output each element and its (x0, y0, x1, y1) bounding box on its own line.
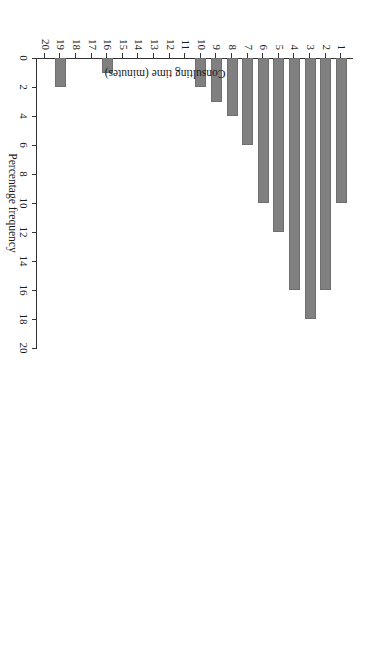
category-tick (215, 53, 216, 58)
category-tick (262, 53, 263, 58)
category-tick (340, 53, 341, 58)
category-tick (169, 53, 170, 58)
category-tick-label: 17 (87, 24, 98, 50)
category-tick-label: 19 (55, 24, 66, 50)
bar-slot (333, 58, 349, 348)
bar (227, 58, 238, 116)
category-tick (231, 53, 232, 58)
category-tick (293, 53, 294, 58)
value-tick (32, 145, 37, 146)
category-tick-label: 18 (71, 24, 82, 50)
value-tick-label: 12 (18, 227, 29, 238)
category-tick (200, 53, 201, 58)
category-tick-label: 9 (211, 24, 222, 50)
bar-slot (53, 58, 69, 348)
bar (336, 58, 347, 203)
category-tick-label: 5 (274, 24, 285, 50)
category-tick-label: 20 (40, 24, 51, 50)
value-tick (32, 116, 37, 117)
category-tick (59, 53, 60, 58)
bar-series (37, 58, 349, 348)
bar (273, 58, 284, 232)
bar-chart-figure: 1234567891011121314151617181920 02468101… (0, 0, 377, 660)
value-tick-label: 14 (18, 256, 29, 267)
category-tick-label: 1 (336, 24, 347, 50)
value-tick (32, 348, 37, 349)
value-tick (32, 87, 37, 88)
value-tick-label: 4 (18, 113, 29, 119)
plot-area: 1234567891011121314151617181920 02468101… (37, 58, 349, 348)
bar-slot (271, 58, 287, 348)
bar-slot (68, 58, 84, 348)
category-tick-label: 15 (118, 24, 129, 50)
bar-slot (131, 58, 147, 348)
value-tick (32, 319, 37, 320)
bar-slot (146, 58, 162, 348)
category-tick (247, 53, 248, 58)
value-tick-label: 10 (18, 198, 29, 209)
bar-slot (193, 58, 209, 348)
category-tick-label: 2 (321, 24, 332, 50)
bar-slot (115, 58, 131, 348)
category-tick (278, 53, 279, 58)
value-tick (32, 174, 37, 175)
value-axis-title: Percentage frequency (7, 58, 19, 348)
category-tick-label: 8 (227, 24, 238, 50)
value-tick (32, 58, 37, 59)
category-tick-label: 12 (165, 24, 176, 50)
bar (289, 58, 300, 290)
value-tick-label: 6 (18, 142, 29, 148)
value-tick-label: 0 (18, 55, 29, 61)
category-tick-label: 4 (289, 24, 300, 50)
value-tick (32, 232, 37, 233)
category-tick (153, 53, 154, 58)
category-tick-label: 10 (196, 24, 207, 50)
category-tick (137, 53, 138, 58)
category-tick (309, 53, 310, 58)
bar (320, 58, 331, 290)
value-tick-label: 16 (18, 285, 29, 296)
category-tick (325, 53, 326, 58)
rotated-figure-wrapper: 1234567891011121314151617181920 02468101… (0, 0, 377, 660)
category-tick-label: 14 (133, 24, 144, 50)
bar-slot (287, 58, 303, 348)
category-tick (91, 53, 92, 58)
value-tick-label: 20 (18, 343, 29, 354)
bar-slot (37, 58, 53, 348)
category-tick-label: 3 (305, 24, 316, 50)
bar-slot (209, 58, 225, 348)
category-tick (106, 53, 107, 58)
value-tick (32, 261, 37, 262)
bar-slot (99, 58, 115, 348)
bar-slot (224, 58, 240, 348)
bar-slot (84, 58, 100, 348)
bar-slot (162, 58, 178, 348)
category-tick-label: 6 (258, 24, 269, 50)
category-tick (75, 53, 76, 58)
category-axis-title: Consulting time (minutes) (9, 68, 321, 80)
bar-slot (240, 58, 256, 348)
value-tick-label: 18 (18, 314, 29, 325)
category-tick-label: 7 (243, 24, 254, 50)
bar (305, 58, 316, 319)
category-tick-label: 13 (149, 24, 160, 50)
value-tick-label: 8 (18, 171, 29, 177)
category-tick-label: 11 (180, 24, 191, 50)
category-tick (122, 53, 123, 58)
category-tick-label: 16 (102, 24, 113, 50)
bar-slot (255, 58, 271, 348)
category-tick (184, 53, 185, 58)
value-tick (32, 203, 37, 204)
bar-slot (318, 58, 334, 348)
bar-slot (177, 58, 193, 348)
value-tick (32, 290, 37, 291)
bar-slot (302, 58, 318, 348)
value-tick-label: 2 (18, 84, 29, 90)
category-tick (44, 53, 45, 58)
